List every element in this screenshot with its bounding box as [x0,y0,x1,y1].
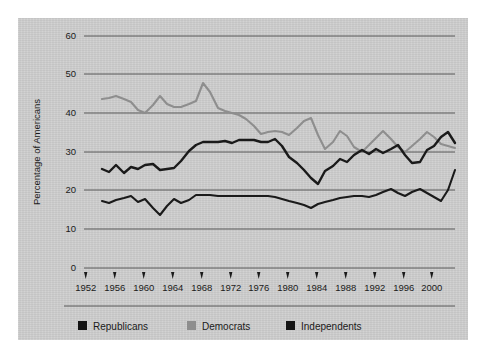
x-tick-mark [286,272,289,279]
x-tick-label-1984: 1984 [306,282,327,293]
y-tick-label-20: 20 [65,184,76,195]
x-tick-mark [113,272,116,279]
y-tick-label-60: 60 [65,30,76,41]
chart-legend: Republicans Democrats Independents [78,321,362,332]
x-tick-mark [430,272,433,279]
x-tick-label-1956: 1956 [104,282,125,293]
legend-label-independents: Independents [301,321,362,332]
x-tick-label-1992: 1992 [364,282,385,293]
legend-label-republicans: Republicans [93,321,148,332]
y-tick-label-30: 30 [65,146,76,157]
x-tick-label-1960: 1960 [133,282,154,293]
x-tick-label-1952: 1952 [75,282,96,293]
x-tick-mark [402,272,405,279]
x-tick-label-1980: 1980 [277,282,298,293]
x-tick-label-1972: 1972 [220,282,241,293]
y-axis-tick-labels: 60 50 40 30 20 10 0 [65,30,76,273]
x-tick-mark [171,272,174,279]
y-tick-label-50: 50 [65,68,76,79]
x-tick-label-1988: 1988 [335,282,356,293]
x-tick-label-1964: 1964 [162,282,183,293]
x-tick-mark [229,272,232,279]
y-tick-label-40: 40 [65,107,76,118]
x-tick-label-1968: 1968 [191,282,212,293]
legend-item-democrats[interactable]: Democrats [187,321,250,332]
x-tick-label-1976: 1976 [248,282,269,293]
series-group [102,83,455,215]
series-line-independents [102,170,455,215]
x-tick-label-1996: 1996 [393,282,414,293]
x-tick-mark [315,272,318,279]
y-tick-label-10: 10 [65,223,76,234]
legend-swatch-icon [286,321,295,330]
x-tick-mark [200,272,203,279]
line-chart: 60 50 40 30 20 10 0 Percentage of Americ… [18,18,468,340]
x-tick-mark [84,272,87,279]
series-line-republicans [102,132,455,184]
x-tick-mark [142,272,145,279]
gridlines [84,36,455,268]
legend-swatch-icon [78,321,87,330]
chart-figure: 60 50 40 30 20 10 0 Percentage of Americ… [18,18,468,340]
legend-label-democrats: Democrats [202,321,250,332]
y-axis-title: Percentage of Americans [31,99,42,205]
x-tick-mark [373,272,376,279]
x-tick-mark [257,272,260,279]
x-axis-tick-marks [84,272,433,279]
legend-swatch-icon [187,321,196,330]
x-tick-label-2000: 2000 [421,282,442,293]
x-tick-mark [344,272,347,279]
x-axis-tick-labels: 1952 1956 1960 1964 1968 1972 1976 1980 … [75,282,442,293]
legend-item-independents[interactable]: Independents [286,321,362,332]
legend-item-republicans[interactable]: Republicans [78,321,148,332]
y-tick-label-0: 0 [71,262,76,273]
